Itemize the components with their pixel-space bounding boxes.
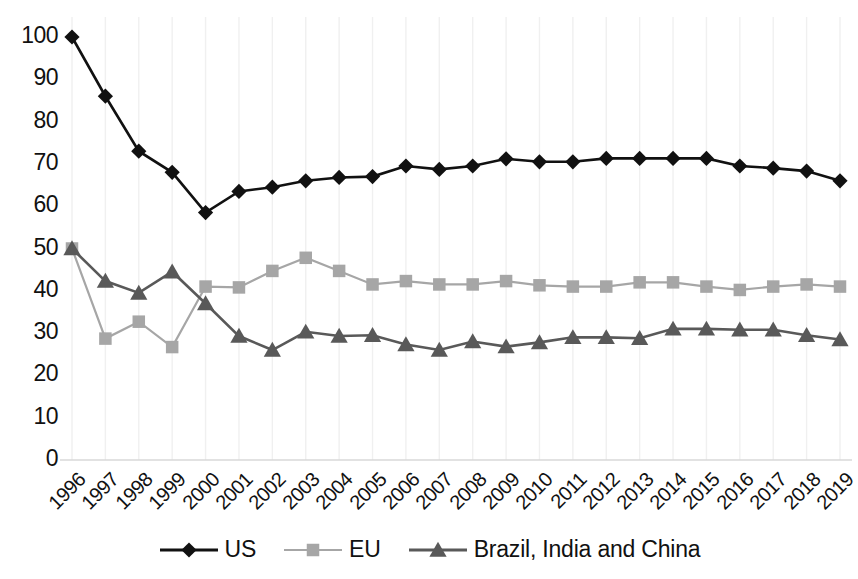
y-tick-label: 0 <box>0 445 58 472</box>
diamond-marker-icon <box>365 169 380 184</box>
diamond-marker-icon <box>632 151 647 166</box>
diamond-marker-icon <box>599 151 614 166</box>
triangle-marker-icon <box>407 539 469 561</box>
y-tick-label: 50 <box>0 234 58 261</box>
triangle-marker-icon <box>130 285 147 300</box>
y-tick-label: 100 <box>0 22 58 49</box>
diamond-marker-icon <box>231 184 246 199</box>
series-markers <box>63 29 848 356</box>
diamond-marker-icon <box>565 154 580 169</box>
square-marker-icon <box>567 280 580 293</box>
square-marker-icon <box>99 332 112 345</box>
square-marker-icon <box>834 280 847 293</box>
y-tick-label: 10 <box>0 403 58 430</box>
square-marker-icon <box>633 276 646 289</box>
diamond-marker-icon <box>131 144 146 159</box>
diamond-marker-icon <box>332 170 347 185</box>
square-marker-icon <box>767 280 780 293</box>
diamond-marker-icon <box>498 151 513 166</box>
y-tick-label: 60 <box>0 191 58 218</box>
square-marker-icon <box>466 278 479 291</box>
square-marker-icon <box>299 252 312 265</box>
series-line-2 <box>72 249 840 348</box>
legend-item-1[interactable]: US <box>158 536 257 563</box>
square-marker-icon <box>400 275 413 288</box>
square-marker-icon <box>166 341 179 354</box>
diamond-marker-icon <box>665 151 680 166</box>
square-marker-icon <box>533 279 546 292</box>
square-marker-icon <box>700 280 713 293</box>
square-marker-icon <box>734 284 747 297</box>
y-tick-label: 40 <box>0 276 58 303</box>
square-marker-icon <box>500 275 512 288</box>
diamond-marker-icon <box>158 539 220 561</box>
square-marker-icon <box>333 265 346 278</box>
diamond-marker-icon <box>298 173 313 188</box>
triangle-marker-icon <box>164 264 181 279</box>
diamond-marker-icon <box>732 158 747 173</box>
square-marker-icon <box>133 315 146 328</box>
square-marker-icon <box>199 280 212 293</box>
series-lines <box>72 37 840 350</box>
legend-label: EU <box>349 536 381 563</box>
diamond-marker-icon <box>766 161 781 176</box>
square-marker-icon <box>307 543 320 556</box>
y-tick-label: 70 <box>0 149 58 176</box>
diamond-marker-icon <box>532 154 547 169</box>
legend-label: US <box>225 536 257 563</box>
triangle-marker-icon <box>464 333 481 348</box>
diamond-marker-icon <box>181 542 196 557</box>
square-marker-icon <box>800 278 813 291</box>
diamond-marker-icon <box>465 158 480 173</box>
legend-item-2[interactable]: EU <box>282 536 381 563</box>
diamond-marker-icon <box>832 173 847 188</box>
vertical-gridlines <box>72 17 840 460</box>
square-marker-icon <box>667 276 680 289</box>
square-marker-icon <box>433 278 446 291</box>
diamond-marker-icon <box>98 89 113 104</box>
diamond-marker-icon <box>799 163 814 178</box>
triangle-marker-icon <box>297 324 314 339</box>
y-tick-label: 80 <box>0 107 58 134</box>
legend-label: Brazil, India and China <box>474 536 701 563</box>
square-marker-icon <box>266 265 279 278</box>
y-tick-label: 90 <box>0 64 58 91</box>
diamond-marker-icon <box>398 158 413 173</box>
diamond-marker-icon <box>432 162 447 177</box>
series-line-1 <box>72 37 840 213</box>
triangle-marker-icon <box>264 342 281 357</box>
square-marker-icon <box>233 281 246 294</box>
square-marker-icon <box>600 280 613 293</box>
series-line-3 <box>72 249 840 351</box>
y-tick-label: 30 <box>0 318 58 345</box>
square-marker-icon <box>282 539 344 561</box>
diamond-marker-icon <box>64 29 79 44</box>
chart-legend: USEUBrazil, India and China <box>0 536 858 563</box>
diamond-marker-icon <box>699 151 714 166</box>
legend-item-3[interactable]: Brazil, India and China <box>407 536 701 563</box>
square-marker-icon <box>366 278 379 291</box>
y-tick-label: 20 <box>0 360 58 387</box>
diamond-marker-icon <box>265 180 280 195</box>
chart-container: 0102030405060708090100 19961997199819992… <box>0 0 858 579</box>
